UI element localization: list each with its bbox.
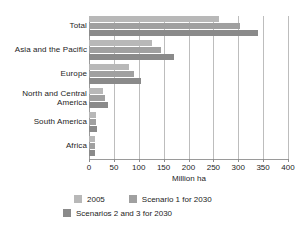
bar-group-total [89, 16, 258, 37]
legend-label-2005: 2005 [87, 195, 105, 204]
category-label-europe: Europe [3, 69, 87, 78]
bar-namerica-scenario1 [89, 95, 105, 101]
chart-row-south-america: South America [0, 112, 301, 136]
bar-europe-scenario1 [89, 71, 134, 77]
chart-screenshot: Total Asia and the Pacific Europe North … [0, 0, 301, 229]
bar-samerica-2005 [89, 112, 96, 118]
bar-asia-scenario1 [89, 47, 161, 53]
tick-mark-0 [89, 159, 90, 162]
x-axis-title: Million ha [89, 174, 289, 183]
bar-asia-2005 [89, 40, 152, 46]
legend-label-scenario23: Scenarios 2 and 3 for 2030 [76, 209, 172, 218]
bar-africa-2005 [89, 136, 95, 142]
category-label-north-central-america: North and Central America [3, 89, 87, 107]
legend-row-1: 2005 Scenario 1 for 2030 [74, 192, 294, 206]
category-label-africa: Africa [3, 141, 87, 150]
bar-africa-scenario23 [89, 150, 95, 156]
legend-item-scenario23: Scenarios 2 and 3 for 2030 [63, 209, 172, 218]
bar-africa-scenario1 [89, 143, 95, 149]
legend-swatch-2005 [74, 195, 82, 203]
tick-mark-100 [139, 159, 140, 162]
category-label-total: Total [3, 21, 87, 30]
bar-group-africa [89, 136, 95, 157]
chart-row-asia: Asia and the Pacific [0, 40, 301, 64]
bar-total-2005 [89, 16, 219, 22]
bar-group-europe [89, 64, 141, 85]
tick-mark-50 [114, 159, 115, 162]
category-label-asia: Asia and the Pacific [3, 45, 87, 54]
chart-row-total: Total [0, 16, 301, 40]
category-label-line2: America [57, 98, 87, 107]
bar-asia-scenario23 [89, 54, 174, 60]
tick-mark-150 [164, 159, 165, 162]
bar-europe-scenario23 [89, 78, 141, 84]
tick-mark-350 [263, 159, 264, 162]
chart-legend: 2005 Scenario 1 for 2030 Scenarios 2 and… [74, 192, 294, 220]
chart-row-europe: Europe [0, 64, 301, 88]
legend-item-2005: 2005 [74, 195, 105, 204]
bar-total-scenario23 [89, 30, 258, 36]
category-label-south-america: South America [3, 117, 87, 126]
bar-group-south-america [89, 112, 97, 133]
tick-mark-400 [288, 159, 289, 162]
bar-samerica-scenario23 [89, 126, 97, 132]
legend-row-2: Scenarios 2 and 3 for 2030 [63, 206, 294, 220]
bar-group-asia [89, 40, 174, 61]
bar-samerica-scenario1 [89, 119, 96, 125]
bar-namerica-scenario23 [89, 102, 108, 108]
bar-group-north-central-america [89, 88, 108, 109]
chart-row-north-central-america: North and Central America [0, 88, 301, 112]
bar-total-scenario1 [89, 23, 240, 29]
chart-row-africa: Africa [0, 136, 301, 160]
tick-mark-300 [238, 159, 239, 162]
legend-label-scenario1: Scenario 1 for 2030 [142, 195, 212, 204]
tick-mark-250 [213, 159, 214, 162]
tick-mark-200 [189, 159, 190, 162]
category-label-line1: North and Central [22, 89, 87, 98]
legend-swatch-scenario23 [63, 209, 71, 217]
tick-label-400: 400 [273, 163, 301, 172]
bar-namerica-2005 [89, 88, 103, 94]
bar-europe-2005 [89, 64, 129, 70]
legend-swatch-scenario1 [129, 195, 137, 203]
legend-item-scenario1: Scenario 1 for 2030 [129, 195, 212, 204]
